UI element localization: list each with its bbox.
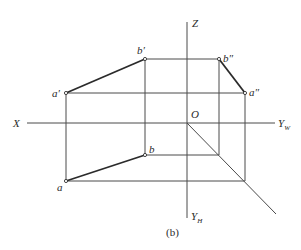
point-a-prime [64, 91, 67, 94]
label-a-prime: a′ [52, 87, 61, 99]
label-yh-axis: YH [191, 210, 203, 225]
label-b-double: b″ [223, 52, 234, 64]
projection-diagram: X Z O YW YH a′ b′ b″ a″ b a (b) [0, 0, 301, 250]
label-yh-sub: H [196, 217, 203, 225]
point-a [64, 179, 67, 182]
label-b: b [149, 143, 155, 155]
point-a-double [243, 91, 246, 94]
point-b-double [217, 57, 220, 60]
label-yw-axis: YW [278, 117, 291, 132]
diagonal-45-line [187, 123, 276, 214]
segment-top-view [66, 155, 145, 181]
point-b [143, 153, 146, 156]
label-z-axis: Z [192, 17, 199, 29]
label-b-prime: b′ [137, 44, 146, 56]
label-yw-sub: W [284, 124, 291, 132]
label-a: a [57, 181, 63, 193]
figure-caption: (b) [166, 226, 179, 239]
label-origin: O [191, 108, 199, 120]
point-b-prime [143, 57, 146, 60]
segment-side-view [219, 59, 245, 93]
label-a-double: a″ [249, 86, 260, 98]
label-x-axis: X [12, 117, 21, 129]
segment-front-view [66, 59, 145, 93]
